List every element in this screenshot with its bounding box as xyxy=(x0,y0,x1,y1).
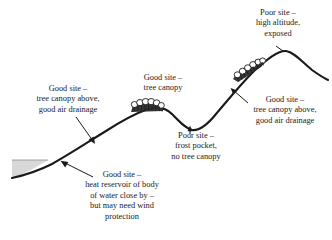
site-selection-diagram: Poor site – high altitude, exposed Good … xyxy=(0,0,332,240)
good-site-tree-canopy-label: Good site – tree canopy xyxy=(120,73,206,94)
leader-arrow-high-altitude xyxy=(276,46,283,51)
leader-arrow-good-left xyxy=(76,117,95,144)
tree-canopy-cluster-upper xyxy=(233,58,266,82)
good-site-heat-reservoir-label: Good site – heat reservoir of body of wa… xyxy=(56,170,188,222)
poor-site-frost-pocket-label: Poor site – frost pocket, no tree canopy xyxy=(150,131,242,162)
tree-canopy-cluster-lower xyxy=(131,99,164,113)
good-site-canopy-drainage-left-label: Good site – tree canopy above, good air … xyxy=(14,84,122,115)
poor-site-high-altitude-label: Poor site – high altitude, exposed xyxy=(228,8,328,39)
good-site-canopy-drainage-right-label: Good site – tree canopy above, good air … xyxy=(238,95,332,126)
